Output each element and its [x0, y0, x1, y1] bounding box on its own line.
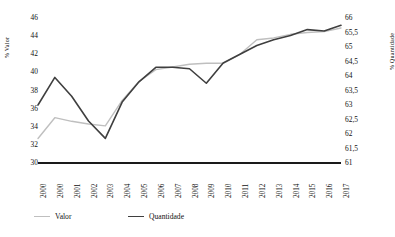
x-axis-tick-label: 2002: [92, 184, 99, 198]
y-axis-right-tick: 64: [345, 72, 379, 79]
x-axis-tick-label: 2008: [193, 184, 200, 198]
y-axis-left: 464442403836343230: [8, 0, 38, 237]
y-axis-right-tick: 63: [345, 101, 379, 108]
y-axis-right-tick: 66: [345, 14, 379, 21]
x-axis-tick-label: 2000: [41, 184, 48, 198]
plot-area: [38, 18, 341, 163]
y-axis-right: 6665,56564,56463,56362,56261,561: [345, 0, 379, 237]
legend-swatch-icon: [128, 216, 144, 217]
chart-legend: ValorQuantidade: [0, 206, 393, 230]
series-line-valor: [38, 28, 341, 139]
y-axis-right-title: % Quantidade: [388, 24, 395, 80]
legend-item-quantidade[interactable]: Quantidade: [128, 212, 184, 221]
y-axis-left-tick: 38: [8, 87, 38, 94]
x-axis-tick-label: 2000: [58, 184, 65, 198]
legend-swatch-icon: [34, 216, 50, 217]
x-axis-tick-labels: 2000200020012002200320042005200620072008…: [38, 166, 341, 202]
legend-label: Quantidade: [149, 212, 184, 221]
x-axis-tick-label: 2001: [75, 184, 82, 198]
x-axis-tick-label: 2007: [176, 184, 183, 198]
y-axis-left-tick: 32: [8, 141, 38, 148]
series-line-quantidade: [38, 25, 341, 138]
series-layer: [38, 25, 341, 138]
x-axis-tick-label: 2004: [125, 184, 132, 198]
y-axis-left-tick: 46: [8, 14, 38, 21]
legend-item-valor[interactable]: Valor: [34, 212, 71, 221]
plot-svg: [38, 18, 341, 163]
y-axis-left-tick: 30: [8, 159, 38, 166]
x-axis-tick-label: 2014: [294, 184, 301, 198]
x-axis-tick-label: 2016: [327, 184, 334, 198]
x-axis-tick-label: 2005: [142, 184, 149, 198]
x-axis-tick-label: 2006: [159, 184, 166, 198]
y-axis-right-tick: 65: [345, 43, 379, 50]
y-axis-left-tick: 36: [8, 105, 38, 112]
y-axis-left-tick: 34: [8, 123, 38, 130]
x-axis-tick-label: 2010: [226, 184, 233, 198]
y-axis-right-tick: 65,5: [345, 29, 379, 36]
x-axis-tick-label: 2012: [260, 184, 267, 198]
y-axis-right-tick: 62: [345, 130, 379, 137]
x-axis-tick-label: 2011: [243, 184, 250, 198]
y-axis-left-tick: 40: [8, 68, 38, 75]
y-axis-right-tick: 61: [345, 159, 379, 166]
y-axis-left-tick: 44: [8, 32, 38, 39]
legend-label: Valor: [55, 212, 71, 221]
x-axis-tick-label: 2015: [310, 184, 317, 198]
x-axis-tick-label: 2017: [344, 184, 351, 198]
x-axis-tick-label: 2003: [108, 184, 115, 198]
x-axis-tick-label: 2009: [209, 184, 216, 198]
x-axis-tick-label: 2013: [277, 184, 284, 198]
y-axis-left-tick: 42: [8, 50, 38, 57]
y-axis-right-tick: 61,5: [345, 145, 379, 152]
y-axis-right-tick: 62,5: [345, 116, 379, 123]
y-axis-right-tick: 63,5: [345, 87, 379, 94]
y-axis-right-tick: 64,5: [345, 58, 379, 65]
